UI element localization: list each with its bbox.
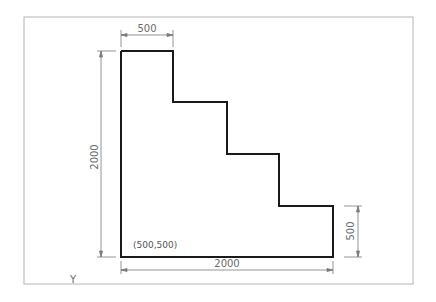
dimension-bottom-label: 2000 [214, 258, 239, 269]
dimension-left-label: 2000 [89, 144, 100, 169]
drawing-frame [24, 17, 413, 284]
dimension-top-label: 500 [137, 23, 156, 34]
origin-coordinate-label: (500,500) [133, 240, 177, 250]
cad-drawing: 500 2000 2000 500 (500,500) Y [0, 0, 436, 302]
dimension-right-label: 500 [345, 221, 356, 240]
axis-label-y: Y [69, 274, 77, 285]
stepped-shape[interactable] [121, 51, 333, 257]
